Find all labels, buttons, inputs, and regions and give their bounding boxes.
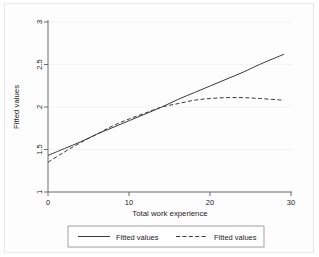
x-tick-label-20: 20 bbox=[206, 198, 214, 207]
y-tick-label-1: 1 bbox=[35, 190, 44, 194]
gridlines bbox=[48, 22, 292, 192]
legend-label-0: Fitted values bbox=[116, 233, 159, 242]
legend-label-1: Fitted values bbox=[214, 233, 257, 242]
y-tick-label-3: 3 bbox=[35, 20, 44, 24]
y-tick-label-1_5: 1.5 bbox=[35, 144, 44, 154]
y-axis: 3 2.5 2 1.5 1 Fitted values bbox=[12, 20, 48, 194]
series-group bbox=[48, 54, 284, 162]
figure-container: 3 2.5 2 1.5 1 Fitted values 0 10 20 30 T… bbox=[0, 0, 319, 257]
x-axis-title: Total work experience bbox=[132, 209, 207, 218]
x-tick-label-30: 30 bbox=[287, 198, 295, 207]
x-tick-label-0: 0 bbox=[46, 198, 50, 207]
plot-area-wrapper: 3 2.5 2 1.5 1 Fitted values 0 10 20 30 T… bbox=[0, 0, 319, 257]
y-tick-label-2: 2 bbox=[35, 105, 44, 109]
line-chart: 3 2.5 2 1.5 1 Fitted values 0 10 20 30 T… bbox=[0, 0, 319, 257]
y-tick-label-2_5: 2.5 bbox=[35, 59, 44, 69]
series-fitted-values-solid bbox=[48, 54, 284, 155]
x-axis: 0 10 20 30 Total work experience bbox=[46, 192, 295, 218]
x-tick-label-10: 10 bbox=[125, 198, 133, 207]
legend: Fitted values Fitted values bbox=[68, 226, 264, 247]
y-axis-title: Fitted values bbox=[12, 85, 21, 129]
